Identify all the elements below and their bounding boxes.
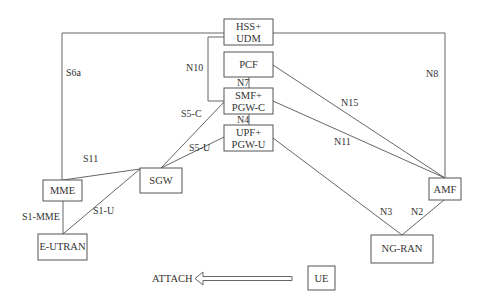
node-mme: MME [43,180,82,201]
link-n10 [208,37,224,101]
label-n15: N15 [341,97,358,108]
node-sgw: SGW [140,168,182,193]
label-n2: N2 [411,206,423,217]
link-n11 [273,101,445,178]
attach-label: ATTACH [152,273,193,284]
label-n3: N3 [380,206,392,217]
link-n8 [273,33,445,178]
label-n11: N11 [334,136,351,147]
label-s5u: S5-U [189,142,211,153]
node-sgw-label: SGW [149,175,172,186]
link-n15 [273,65,445,178]
node-eutran-label: E-UTRAN [39,241,85,252]
attach-indicator: ATTACH [152,272,292,285]
label-s1u: S1-U [93,205,115,216]
network-architecture-diagram: HSS+ UDM PCF SMF+ PGW-C UPF+ PGW-U SGW M… [0,0,482,306]
node-mme-label: MME [50,185,75,196]
label-s11: S11 [83,153,98,164]
node-upf-line1: UPF+ [236,127,261,138]
node-eutran: E-UTRAN [38,234,87,260]
node-amf-label: AMF [434,184,457,195]
node-ngran: NG-RAN [371,235,433,263]
label-n4: N4 [237,114,249,125]
node-hss-udm: HSS+ UDM [224,19,273,45]
node-upf-line2: PGW-U [232,139,266,150]
label-s5c: S5-C [181,108,202,119]
node-pcf: PCF [224,52,273,77]
label-s6a: S6a [66,67,82,78]
label-n10: N10 [186,62,203,73]
node-ue-label: UE [315,273,329,284]
node-hss-udm-line2: UDM [236,33,261,44]
node-smf-pgwc: SMF+ PGW-C [224,88,273,114]
node-smf-line1: SMF+ [235,90,262,101]
link-n3 [273,138,402,235]
node-smf-line2: PGW-C [232,102,265,113]
left-arrow-icon [195,272,292,285]
node-upf-pgwu: UPF+ PGW-U [224,125,273,151]
node-amf: AMF [429,178,461,200]
node-ue: UE [308,266,335,290]
node-pcf-label: PCF [239,59,258,70]
label-n8: N8 [426,68,438,79]
node-hss-udm-line1: HSS+ [236,21,261,32]
label-n7: N7 [237,77,249,88]
node-ngran-label: NG-RAN [382,243,423,254]
label-s1mme: S1-MME [22,211,60,222]
